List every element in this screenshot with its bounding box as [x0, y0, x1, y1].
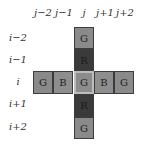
- cell-i-j-minus-2: G: [33, 71, 53, 94]
- row-label-i-plus-1: i+1: [6, 98, 30, 110]
- cell-i-j-center: G: [74, 71, 94, 94]
- cell-i-j-plus-1: B: [94, 71, 114, 94]
- cell-i-plus-2-j: G: [74, 117, 94, 139]
- row-label-i-minus-2: i−2: [6, 32, 30, 44]
- col-label-j-minus-2: j−2: [33, 7, 53, 18]
- row-label-i-plus-2: i+2: [6, 121, 30, 133]
- cell-i-minus-2-j: G: [74, 27, 94, 49]
- row-label-i: i: [6, 76, 30, 88]
- col-label-j-plus-2: j+2: [115, 7, 135, 18]
- col-label-j-plus-1: j+1: [95, 7, 115, 18]
- cell-i-plus-1-j: R: [74, 94, 94, 117]
- col-label-j-minus-1: j−1: [54, 7, 74, 18]
- cell-i-minus-1-j: R: [74, 49, 94, 71]
- col-label-j: j: [74, 7, 94, 18]
- row-label-i-minus-1: i−1: [6, 54, 30, 66]
- cell-i-j-minus-1: B: [53, 71, 73, 94]
- cell-i-j-plus-2: G: [114, 71, 134, 94]
